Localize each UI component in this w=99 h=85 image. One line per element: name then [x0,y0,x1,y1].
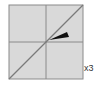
multiplier-label: x3 [84,63,94,73]
scale-icon: x3 [0,0,99,85]
